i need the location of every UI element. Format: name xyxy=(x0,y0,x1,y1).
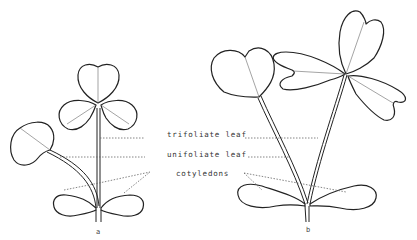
leader-cotyledon-b1 xyxy=(244,173,346,192)
cotyledon-left-a xyxy=(54,195,97,216)
leader-cotyledon-a1 xyxy=(99,172,150,183)
trifoliate-left-leaflet-b xyxy=(273,52,345,90)
trifoliate-top-leaflet-a xyxy=(78,64,119,103)
cotyledon-right-b xyxy=(310,185,376,209)
seedling-diagram xyxy=(0,0,417,240)
label-cotyledons: cotyledons xyxy=(176,169,229,178)
diagram-stage: trifoliate leaf unifoliate leaf cotyledo… xyxy=(0,0,417,240)
label-trifoliate-leaf: trifoliate leaf xyxy=(167,130,247,139)
leader-cotyledon-a2 xyxy=(124,172,150,193)
trifoliate-right-leaflet-b xyxy=(348,76,406,121)
trifoliate-top-leaflet-b xyxy=(339,11,384,74)
seedling-b xyxy=(211,11,405,222)
cotyledon-right-a xyxy=(101,195,143,216)
trifoliate-right-leaflet-a xyxy=(101,100,137,129)
stem-trifoliate-a xyxy=(97,108,100,208)
cotyledon-left-b xyxy=(238,184,305,207)
unifoliate-leaf-a xyxy=(11,122,54,165)
leader-lines xyxy=(60,138,346,193)
figure-caption-a: a xyxy=(96,228,100,236)
trifoliate-left-leaflet-a xyxy=(59,100,96,129)
label-unifoliate-leaf: unifoliate leaf xyxy=(167,150,247,159)
stem-trifoliate-b xyxy=(307,75,347,204)
stem-unifoliate-b xyxy=(258,96,308,204)
figure-caption-b: b xyxy=(306,226,310,234)
unifoliate-leaf-b xyxy=(211,48,274,97)
seedling-a xyxy=(11,64,144,222)
